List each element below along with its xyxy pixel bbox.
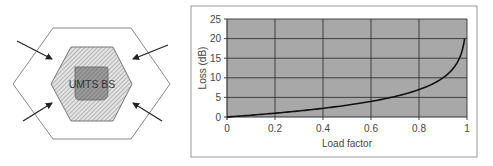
figure: UMTS BS 0510152025 00.20.40.60.81 Load f… bbox=[0, 0, 493, 166]
y-tick-label: 15 bbox=[210, 53, 222, 64]
x-tick-label: 1 bbox=[464, 123, 470, 134]
y-tick-label: 10 bbox=[210, 72, 222, 83]
y-tick-label: 25 bbox=[210, 14, 222, 25]
y-axis-label: Loss (dB) bbox=[197, 47, 208, 90]
x-tick-label: 0 bbox=[224, 123, 230, 134]
x-tick-label: 0.6 bbox=[364, 123, 378, 134]
x-tick-label: 0.2 bbox=[268, 123, 282, 134]
y-tick-label: 5 bbox=[215, 92, 221, 103]
loss-chart: 0510152025 00.20.40.60.81 Load factor Lo… bbox=[191, 6, 477, 157]
bs-label: UMTS BS bbox=[69, 78, 116, 90]
y-tick-label: 0 bbox=[215, 112, 221, 123]
x-axis-label: Load factor bbox=[322, 138, 373, 149]
x-tick-label: 0.4 bbox=[316, 123, 330, 134]
x-tick-label: 0.8 bbox=[412, 123, 426, 134]
cell-diagram: UMTS BS bbox=[13, 28, 170, 139]
plot-area bbox=[227, 19, 467, 117]
y-tick-label: 20 bbox=[210, 33, 222, 44]
